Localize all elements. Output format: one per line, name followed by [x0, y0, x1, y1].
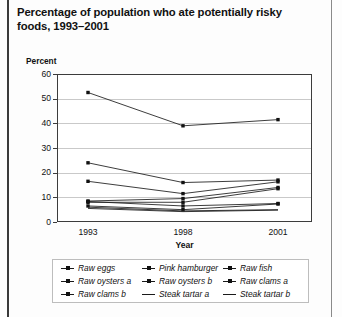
legend-item-label: Raw clams b: [78, 290, 126, 299]
y-axis-unit-label: Percent: [26, 56, 56, 66]
legend-item[interactable]: Raw clams b: [61, 288, 142, 301]
y-tick-label: 30: [25, 143, 51, 153]
page-edge-rule-left: [7, 0, 9, 317]
legend-marker-icon: [223, 290, 236, 299]
legend-item[interactable]: Pink hamburger: [142, 262, 223, 275]
legend-marker-icon: [61, 264, 74, 273]
page-edge-rule-right: [331, 0, 332, 317]
y-tick-mark: [53, 173, 57, 174]
legend-item[interactable]: Raw fish: [223, 262, 304, 275]
legend-item-label: Raw eggs: [78, 264, 115, 273]
legend-item[interactable]: Steak tartar a: [142, 288, 223, 301]
legend-marker-icon: [61, 290, 74, 299]
legend-item-label: Pink hamburger: [159, 264, 218, 273]
legend-marker-icon: [223, 277, 236, 286]
legend-item-label: Raw oysters b: [159, 277, 212, 286]
y-tick-mark: [53, 74, 57, 75]
gridline: [58, 197, 311, 198]
y-tick-label: 10: [25, 192, 51, 202]
y-tick-mark: [53, 99, 57, 100]
chart-legend: Raw eggsPink hamburgerRaw fishRaw oyster…: [52, 259, 309, 303]
y-tick-mark: [53, 197, 57, 198]
y-tick-label: 0: [25, 217, 51, 227]
gridline: [58, 173, 311, 174]
y-tick-mark: [53, 222, 57, 223]
legend-item-label: Raw oysters a: [78, 277, 131, 286]
y-tick-label: 40: [25, 118, 51, 128]
chart-title: Percentage of population who ate potenti…: [17, 5, 317, 33]
legend-item[interactable]: Steak tartar b: [223, 288, 304, 301]
legend-item-label: Raw clams a: [240, 277, 288, 286]
chart-page: Percentage of population who ate potenti…: [0, 0, 342, 317]
legend-item[interactable]: Raw oysters a: [61, 275, 142, 288]
legend-marker-icon: [142, 264, 155, 273]
legend-item-label: Raw fish: [240, 264, 272, 273]
y-tick-mark: [53, 148, 57, 149]
gridline: [58, 99, 311, 100]
legend-item[interactable]: Raw clams a: [223, 275, 304, 288]
plot-area: [57, 74, 312, 222]
legend-item[interactable]: Raw eggs: [61, 262, 142, 275]
x-axis-title: Year: [57, 240, 312, 250]
legend-marker-icon: [142, 277, 155, 286]
gridline: [58, 148, 311, 149]
legend-item-label: Steak tartar a: [159, 290, 209, 299]
x-tick-label: 1998: [163, 227, 203, 237]
legend-item-label: Steak tartar b: [240, 290, 290, 299]
x-tick-label: 2001: [258, 227, 298, 237]
legend-item[interactable]: Raw oysters b: [142, 275, 223, 288]
y-tick-mark: [53, 123, 57, 124]
x-tick-label: 1993: [68, 227, 108, 237]
y-tick-label: 50: [25, 93, 51, 103]
legend-marker-icon: [142, 290, 155, 299]
y-tick-label: 60: [25, 69, 51, 79]
legend-marker-icon: [223, 264, 236, 273]
y-tick-label: 20: [25, 167, 51, 177]
legend-marker-icon: [61, 277, 74, 286]
gridline: [58, 123, 311, 124]
